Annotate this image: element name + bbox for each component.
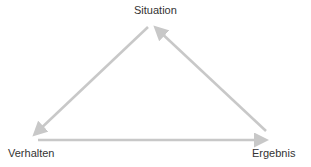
- cycle-diagram: [0, 0, 311, 167]
- arrow-situation-to-verhalten: [36, 27, 148, 133]
- arrow-ergebnis-to-situation: [157, 29, 266, 131]
